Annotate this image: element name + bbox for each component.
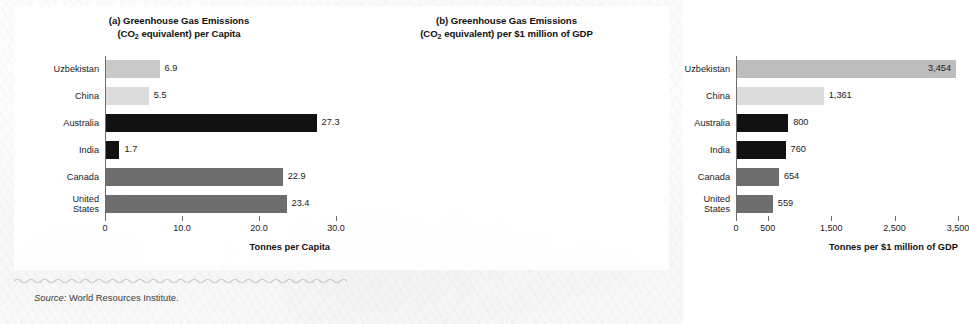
x-tick-mark xyxy=(259,216,260,221)
bar[interactable] xyxy=(737,141,785,159)
category-label: India xyxy=(616,145,730,156)
x-tick-mark xyxy=(182,216,183,221)
category-label: China xyxy=(616,91,730,102)
category-label: Canada xyxy=(0,172,99,183)
x-tick-label: 3,500 xyxy=(947,223,969,233)
source-label: Source: xyxy=(34,292,66,303)
bar-row[interactable]: 1,361 xyxy=(736,87,958,105)
bar-value-label: 559 xyxy=(778,198,793,208)
category-label: Canada xyxy=(616,172,730,183)
x-tick-label: 500 xyxy=(760,223,775,233)
x-tick-label: 30.0 xyxy=(327,223,345,233)
x-tick-mark xyxy=(105,216,106,221)
panel-a-title-line2: (CO2 equivalent) per Capita xyxy=(14,27,344,41)
bar[interactable] xyxy=(106,195,286,213)
chart-plate: (a) Greenhouse Gas Emissions (CO2 equiva… xyxy=(14,6,669,270)
bar[interactable] xyxy=(737,60,956,78)
bar-value-label: 800 xyxy=(793,117,808,127)
category-label: Australia xyxy=(0,118,99,129)
x-tick-mark xyxy=(895,216,896,221)
bar[interactable] xyxy=(106,87,148,105)
bar-row[interactable]: 800 xyxy=(736,114,958,132)
bar-value-label: 5.5 xyxy=(154,90,167,100)
bar-row[interactable]: 27.3 xyxy=(105,114,336,132)
bar-row[interactable]: 1.7 xyxy=(105,141,336,159)
bar[interactable] xyxy=(106,60,159,78)
subscript-2: 2 xyxy=(438,32,442,41)
x-tick-label: 20.0 xyxy=(250,223,268,233)
bar[interactable] xyxy=(737,195,772,213)
x-tick-label: 0 xyxy=(733,223,738,233)
bar-value-label: 654 xyxy=(784,171,799,181)
bar[interactable] xyxy=(106,141,119,159)
panel-a-y-axis-line xyxy=(105,56,106,216)
x-tick-mark xyxy=(958,216,959,221)
x-tick-mark xyxy=(736,216,737,221)
category-label: Uzbekistan xyxy=(616,64,730,75)
bar-row[interactable]: 760 xyxy=(736,141,958,159)
source-text: World Resources Institute. xyxy=(69,292,179,303)
bar-row[interactable]: 654 xyxy=(736,168,958,186)
bar-value-label: 22.9 xyxy=(288,171,306,181)
panel-a-plot-area: 010.020.030.0 6.95.527.31.722.923.4 Uzbe… xyxy=(105,56,336,222)
bar[interactable] xyxy=(106,114,316,132)
panel-b-x-axis-title: Tonnes per $1 million of GDP xyxy=(829,242,958,252)
panel-a-x-axis-title: Tonnes per Capita xyxy=(250,242,330,252)
chart-panel-b: (b) Greenhouse Gas Emissions (CO2 equiva… xyxy=(344,6,669,270)
category-label: United States xyxy=(0,194,99,215)
panel-b-title-line2: (CO2 equivalent) per $1 million of GDP xyxy=(344,27,669,41)
x-tick-label: 2,500 xyxy=(883,223,906,233)
category-label: China xyxy=(0,91,99,102)
panel-b-title: (b) Greenhouse Gas Emissions (CO2 equiva… xyxy=(344,14,669,41)
panel-b-plot-area: 05001,5002,5003,500 3,4541,3618007606545… xyxy=(736,56,958,222)
x-tick-label: 1,500 xyxy=(820,223,843,233)
bar-value-label: 3,454 xyxy=(928,63,951,73)
source-note: Source: World Resources Institute. xyxy=(34,292,179,303)
bar-value-label: 23.4 xyxy=(292,198,310,208)
category-label: Uzbekistan xyxy=(0,64,99,75)
bar-row[interactable]: 23.4 xyxy=(105,195,336,213)
bar-row[interactable]: 5.5 xyxy=(105,87,336,105)
panel-b-y-axis-line xyxy=(736,56,737,216)
category-label: India xyxy=(0,145,99,156)
panel-a-title-line1: (a) Greenhouse Gas Emissions xyxy=(109,15,249,26)
chart-panel-a: (a) Greenhouse Gas Emissions (CO2 equiva… xyxy=(14,6,344,270)
bar-row[interactable]: 3,454 xyxy=(736,60,958,78)
x-tick-label: 0 xyxy=(102,223,107,233)
bar-value-label: 6.9 xyxy=(165,63,178,73)
footer-divider xyxy=(14,277,669,283)
x-tick-mark xyxy=(831,216,832,221)
bar-value-label: 1.7 xyxy=(124,144,137,154)
x-tick-mark xyxy=(768,216,769,221)
bar-row[interactable]: 22.9 xyxy=(105,168,336,186)
panel-a-title: (a) Greenhouse Gas Emissions (CO2 equiva… xyxy=(14,14,344,41)
category-label: Australia xyxy=(616,118,730,129)
subscript-2: 2 xyxy=(135,32,139,41)
bar-value-label: 27.3 xyxy=(322,117,340,127)
bar-row[interactable]: 6.9 xyxy=(105,60,336,78)
x-tick-label: 10.0 xyxy=(173,223,191,233)
bar[interactable] xyxy=(737,114,788,132)
bar-value-label: 760 xyxy=(791,144,806,154)
panel-b-title-line1: (b) Greenhouse Gas Emissions xyxy=(436,15,577,26)
bar-row[interactable]: 559 xyxy=(736,195,958,213)
bar[interactable] xyxy=(737,87,823,105)
bar[interactable] xyxy=(106,168,282,186)
x-tick-mark xyxy=(336,216,337,221)
category-label: United States xyxy=(616,194,730,215)
bar-value-label: 1,361 xyxy=(829,90,852,100)
bar[interactable] xyxy=(737,168,778,186)
